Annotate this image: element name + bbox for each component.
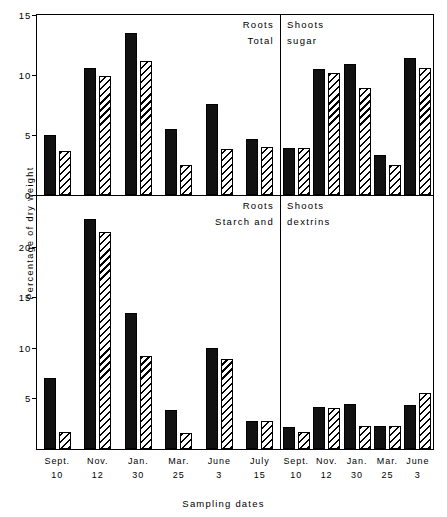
bar-hatched: [298, 148, 310, 195]
bar-solid: [206, 348, 218, 449]
bar-solid: [84, 219, 96, 449]
bar-solid: [165, 410, 177, 449]
y-axis-tick-label: 5: [25, 130, 31, 141]
bar-solid: [246, 421, 258, 449]
y-axis-tick: [32, 247, 37, 248]
y-axis-tick: [32, 135, 37, 136]
y-axis-tick-label: 15: [19, 292, 31, 303]
bar-pair: [125, 15, 152, 195]
bar-group-roots-starch-dextrins: [37, 196, 280, 449]
bar-solid: [313, 407, 325, 450]
bar-pair: [84, 196, 111, 449]
bar-pair: [283, 15, 310, 195]
bar-hatched: [261, 147, 273, 195]
x-label-month: Nov.: [87, 456, 108, 466]
bar-hatched: [180, 165, 192, 195]
bar-group-shoots-total-sugar: [281, 15, 433, 195]
bar-group-roots-total-sugar: [37, 15, 280, 195]
x-label-day: 25: [168, 470, 189, 480]
bar-pair: [165, 196, 192, 449]
bar-hatched: [328, 73, 340, 195]
bar-group-shoots-starch-dextrins: [281, 196, 433, 449]
x-label-month: Jan.: [128, 456, 149, 466]
x-label-day: 12: [316, 470, 337, 480]
bar-pair: [44, 196, 71, 449]
bar-solid: [344, 64, 356, 195]
bar-hatched: [419, 68, 431, 195]
bar-hatched: [59, 151, 71, 195]
x-axis-tick-label: Nov.12: [87, 456, 108, 480]
x-axis-tick-label: Nov.12: [316, 456, 337, 480]
x-label-month: Nov.: [316, 456, 337, 466]
y-axis-tick-label: 20: [19, 241, 31, 252]
bar-hatched: [359, 88, 371, 195]
bar-solid: [165, 129, 177, 195]
y-axis-tick: [32, 15, 37, 16]
panel-roots-total-sugar: Roots Total: [37, 15, 280, 195]
bar-hatched: [298, 432, 310, 449]
x-axis-tick-label: Mar.25: [377, 456, 398, 480]
bar-solid: [374, 155, 386, 195]
x-axis-tick-label: July15: [250, 456, 270, 480]
x-label-month: Sept.: [44, 456, 70, 466]
bar-solid: [404, 405, 416, 449]
x-label-day: 10: [283, 470, 309, 480]
y-axis-tick-label: 0: [25, 190, 31, 201]
x-label-day: 3: [208, 470, 231, 480]
bar-solid: [125, 313, 137, 449]
bar-hatched: [140, 61, 152, 195]
x-label-day: 15: [250, 470, 270, 480]
bar-pair: [313, 196, 340, 449]
bar-pair: [165, 15, 192, 195]
x-label-month: July: [250, 456, 270, 466]
bar-hatched: [359, 426, 371, 449]
plot-area: Roots Total Shoots sugar Roots Starch an…: [36, 14, 434, 450]
x-label-day: 25: [377, 470, 398, 480]
bar-pair: [84, 15, 111, 195]
bar-pair: [246, 15, 273, 195]
bar-solid: [206, 104, 218, 195]
bar-solid: [374, 426, 386, 449]
x-axis-tick-label: Jan.30: [128, 456, 149, 480]
bar-solid: [44, 135, 56, 195]
bar-hatched: [99, 76, 111, 195]
x-label-month: Sept.: [283, 456, 309, 466]
x-axis-title: Sampling dates: [0, 498, 447, 509]
x-label-month: Jan.: [347, 456, 368, 466]
x-axis-tick-label: June3: [406, 456, 429, 480]
bar-pair: [404, 15, 431, 195]
y-axis-tick-label: 15: [19, 10, 31, 21]
bar-hatched: [180, 433, 192, 449]
bar-solid: [313, 69, 325, 195]
bar-solid: [246, 139, 258, 195]
bar-hatched: [419, 393, 431, 449]
y-axis-tick: [32, 195, 37, 196]
bar-pair: [344, 196, 371, 449]
panel-roots-starch-dextrins: Roots Starch and: [37, 196, 280, 449]
x-label-day: 3: [406, 470, 429, 480]
bar-solid: [344, 404, 356, 449]
bar-pair: [283, 196, 310, 449]
bar-hatched: [221, 149, 233, 195]
bar-pair: [206, 196, 233, 449]
bar-pair: [374, 15, 401, 195]
bar-hatched: [221, 359, 233, 449]
bar-hatched: [140, 356, 152, 449]
y-axis-tick: [32, 297, 37, 298]
x-axis-tick-label: Jan.30: [347, 456, 368, 480]
y-axis-tick-label: 10: [19, 70, 31, 81]
x-axis-tick-label: Mar.25: [168, 456, 189, 480]
x-label-month: Mar.: [377, 456, 398, 466]
bar-hatched: [328, 408, 340, 449]
bar-hatched: [99, 232, 111, 449]
y-axis-tick: [32, 348, 37, 349]
panel-shoots-starch-dextrins: Shoots dextrins: [281, 196, 433, 449]
y-axis-tick: [32, 398, 37, 399]
y-axis-tick-label: 5: [25, 393, 31, 404]
x-label-day: 10: [44, 470, 70, 480]
x-label-day: 30: [128, 470, 149, 480]
x-axis-tick-label: June3: [208, 456, 231, 480]
figure-chart: Percentage of dry weight Roots Total Sho…: [0, 0, 447, 517]
x-axis-tick-label: Sept.10: [283, 456, 309, 480]
x-axis-tick-label: Sept.10: [44, 456, 70, 480]
